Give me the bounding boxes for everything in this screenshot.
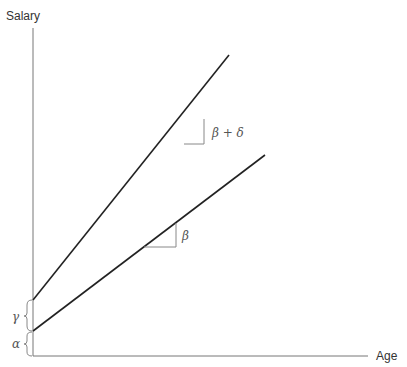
lower-slope-label: β: [181, 229, 189, 243]
upper-slope-label: β + δ: [211, 126, 244, 140]
gamma-label: γ: [12, 310, 20, 324]
x-axis-label: Age: [376, 349, 398, 363]
diagram-canvas: Salary Age β + δ β γ α: [0, 0, 407, 367]
upper-slope-triangle: [184, 119, 204, 144]
alpha-brace: [24, 332, 32, 356]
y-axis-label: Salary: [6, 9, 40, 23]
lower-line: [33, 155, 265, 331]
alpha-label: α: [12, 337, 20, 351]
gamma-brace: [24, 300, 32, 331]
salary-age-diagram: Salary Age β + δ β γ α: [0, 0, 407, 367]
upper-line: [33, 55, 229, 300]
